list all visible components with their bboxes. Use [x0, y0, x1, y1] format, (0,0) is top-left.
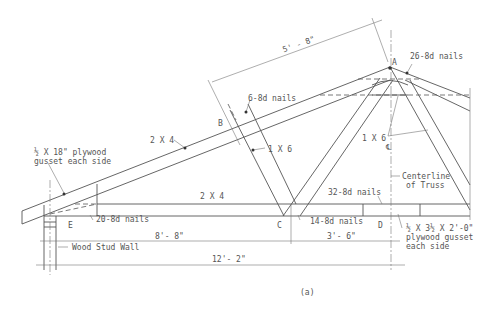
- centerline-symbol: ℄: [386, 143, 391, 152]
- centerline-label-1: Centerline: [402, 172, 450, 181]
- arrow-nails-b: [245, 111, 248, 114]
- nails-c-label: 14-8d nails: [310, 217, 363, 226]
- point-e-label: E: [68, 221, 73, 230]
- bottom-chord-label: 2 X 4: [200, 192, 224, 201]
- top-chord-label: 2 X 4: [150, 136, 174, 145]
- gusset-left-label-2: gusset each side: [34, 157, 111, 166]
- dim-8-8-label: 8'- 8": [155, 232, 184, 241]
- leader-nails-a: [407, 64, 412, 73]
- gusset-d-label-2: plywood gusset: [406, 233, 473, 242]
- leader-top-chord: [174, 140, 185, 148]
- web-right-label: 1 X 6: [362, 134, 386, 143]
- arrow-web-left: [252, 149, 255, 152]
- nails-e-label: 20-8d nails: [96, 215, 149, 224]
- leader-nails-d: [378, 196, 382, 204]
- gusset-left-label-1: ½ X 18" plywood: [34, 148, 106, 157]
- leader-web-right: [388, 130, 428, 136]
- truss-diagram: ½ X 18" plywood gusset each side 2 X 4 2…: [0, 0, 496, 317]
- gusset-e-dash: [50, 204, 97, 214]
- gusset-d-label-3: each side: [406, 242, 449, 251]
- point-c-label: C: [277, 221, 282, 230]
- nails-d-label: 32-8d nails: [328, 188, 381, 197]
- dim-ext-b: [208, 80, 240, 145]
- centerline-label-2: of Truss: [406, 181, 445, 190]
- leader-web-left: [253, 148, 265, 150]
- figure-caption: (a): [300, 288, 314, 297]
- arrow-nails-a: [406, 72, 409, 75]
- web-left-label: 1 X 6: [268, 145, 292, 154]
- dim-3-6-label: 3'- 6": [327, 232, 356, 241]
- web-bc-edge-2: [248, 104, 296, 204]
- leader-gusset-e: [48, 163, 64, 193]
- dim-line-5-8: [212, 20, 382, 82]
- gusset-d-label-1: ½ X 3½ X 2'-0": [406, 224, 473, 233]
- dim-ext-a: [372, 18, 388, 62]
- point-b-label: B: [218, 119, 223, 128]
- web-right-edge-2: [410, 80, 470, 185]
- dim-12-2-label: 12'- 2": [212, 255, 246, 264]
- leader-web-ca: [388, 96, 398, 136]
- nails-a-label: 26-8d nails: [410, 52, 463, 61]
- wall-label: Wood Stud Wall: [72, 243, 139, 252]
- nails-b-label: 6-8d nails: [248, 94, 296, 103]
- right-rafter-lower: [405, 80, 470, 111]
- arrow-top-chord: [184, 147, 187, 150]
- point-d-label: D: [378, 221, 383, 230]
- arrow-gusset-e: [63, 193, 66, 196]
- point-a-label: A: [392, 58, 397, 67]
- gusset-b-dash: [228, 104, 236, 120]
